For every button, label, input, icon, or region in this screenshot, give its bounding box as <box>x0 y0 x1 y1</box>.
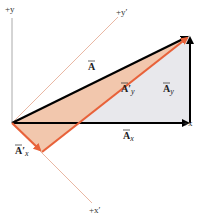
label-ax: Ax <box>123 130 134 143</box>
svg-text:A′x: A′x <box>15 145 29 158</box>
y-axis-label: +y <box>5 4 15 14</box>
vector-components-diagram: +y +x +y′ +x′ A Ay A′y Ax A′x <box>0 0 197 218</box>
label-apx: A′x <box>15 145 29 158</box>
x-prime-axis-label: +x′ <box>89 205 101 215</box>
y-prime-axis-label: +y′ <box>116 7 128 17</box>
svg-text:Ax: Ax <box>123 130 134 143</box>
svg-text:A: A <box>88 61 96 72</box>
label-a: A <box>88 61 96 72</box>
x-axis-label: +x <box>183 118 193 128</box>
